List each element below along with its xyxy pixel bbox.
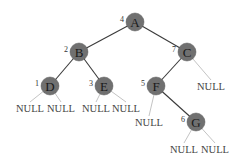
node-label: C — [183, 45, 192, 60]
tree-node-f: F5 — [141, 77, 165, 95]
null-leaf-label: NULL — [170, 144, 198, 155]
node-label: D — [45, 79, 54, 94]
edge-a-b — [79, 22, 135, 52]
traversal-order-label: 3 — [89, 79, 93, 88]
tree-node-c: C7 — [172, 43, 196, 61]
tree-node-e: E3 — [89, 77, 113, 95]
tree-node-b: B2 — [64, 43, 88, 61]
node-label: E — [100, 79, 108, 94]
node-label: A — [130, 15, 140, 30]
null-leaf-label: NULL — [82, 103, 110, 114]
tree-node-g: G6 — [181, 113, 205, 131]
node-label: G — [191, 115, 200, 130]
traversal-order-label: 6 — [181, 115, 185, 124]
binary-tree-diagram: A4B2C7D1E3F5G6 NULLNULLNULLNULLNULLNULLN… — [0, 0, 241, 162]
null-leaf-label: NULL — [201, 144, 229, 155]
traversal-order-label: 4 — [120, 15, 124, 24]
node-label: F — [152, 79, 159, 94]
node-label: B — [75, 45, 84, 60]
traversal-order-label: 5 — [141, 79, 145, 88]
null-leaf-label: NULL — [47, 103, 75, 114]
traversal-order-label: 1 — [35, 79, 39, 88]
null-leaf-label: NULL — [112, 103, 140, 114]
null-leaf-label: NULL — [135, 117, 163, 128]
traversal-order-label: 2 — [64, 45, 68, 54]
traversal-order-label: 7 — [172, 45, 176, 54]
tree-node-d: D1 — [35, 77, 59, 95]
null-edges — [30, 52, 215, 143]
null-leaf-label: NULL — [16, 103, 44, 114]
null-leaf-label: NULL — [197, 81, 225, 92]
